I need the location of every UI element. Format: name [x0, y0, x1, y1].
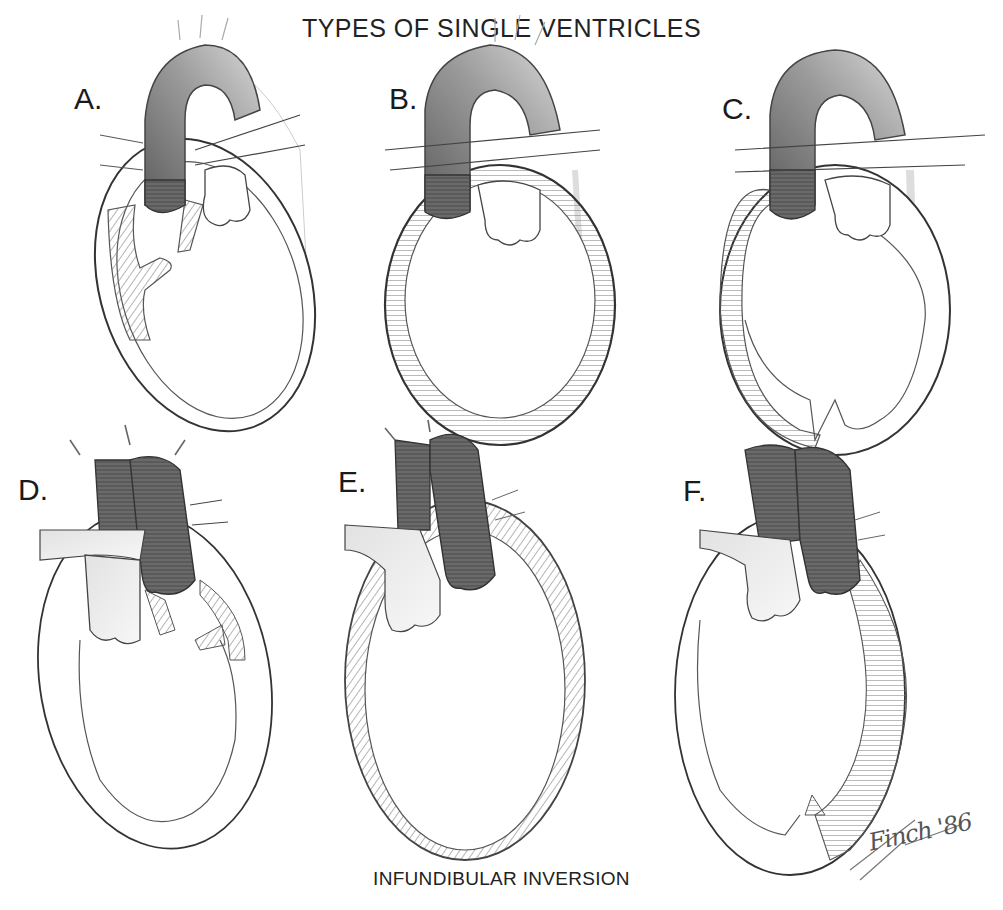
panel-label-c: C.	[722, 92, 752, 126]
panel-b-drawing	[385, 15, 615, 445]
panel-c-drawing	[720, 50, 985, 455]
illustration-canvas	[0, 0, 1003, 910]
panel-label-a: A.	[74, 82, 102, 116]
panel-e-drawing	[345, 420, 585, 860]
panel-d-drawing	[12, 425, 298, 867]
figure-caption: INFUNDIBULAR INVERSION	[0, 868, 1003, 890]
panel-label-b: B.	[389, 82, 417, 116]
panel-f-drawing	[675, 445, 907, 875]
panel-label-f: F.	[683, 474, 706, 508]
panel-a-drawing	[59, 15, 351, 460]
panel-label-e: E.	[338, 465, 366, 499]
panel-label-d: D.	[18, 473, 48, 507]
